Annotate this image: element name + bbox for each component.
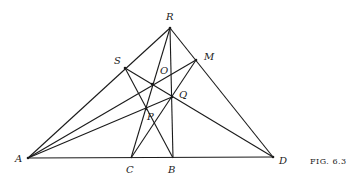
label-C: C (126, 164, 134, 175)
label-R: R (165, 11, 174, 22)
point-D (272, 156, 275, 159)
label-Q: Q (179, 89, 187, 100)
label-D: D (278, 155, 287, 166)
label-P: P (146, 111, 154, 122)
geometry-diagram: R S M O Q P A C B D FIG. 6.3 (0, 0, 351, 182)
point-A (27, 157, 30, 160)
label-B: B (167, 164, 175, 175)
segment-RB (170, 28, 173, 158)
point-M (195, 59, 198, 62)
point-P (145, 108, 148, 111)
figure-caption: FIG. 6.3 (310, 157, 347, 166)
point-Q (171, 96, 174, 99)
point-R (169, 27, 172, 30)
point-O (151, 83, 154, 86)
label-S: S (114, 55, 121, 66)
segment-AQ (28, 97, 172, 158)
segment-AD (28, 157, 273, 158)
segment-RC (131, 28, 170, 158)
label-M: M (203, 51, 215, 62)
diagram-lines (28, 28, 273, 158)
point-S (124, 67, 127, 70)
segment-AM (28, 60, 196, 158)
label-A: A (14, 153, 22, 164)
segment-AR (28, 28, 170, 158)
label-O: O (160, 65, 168, 76)
